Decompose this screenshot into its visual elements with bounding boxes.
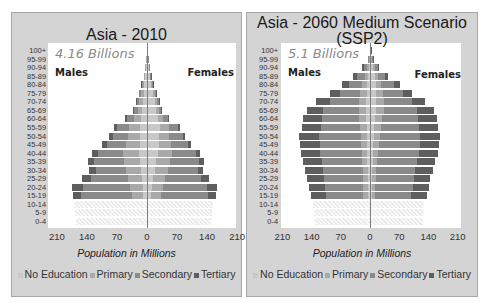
tertiary-segment bbox=[168, 115, 169, 122]
no-education-segment bbox=[147, 107, 156, 114]
primary-segment bbox=[158, 150, 172, 157]
x-axis-label: Population in Millions bbox=[12, 247, 241, 259]
male-bar bbox=[75, 209, 147, 216]
secondary-segment bbox=[340, 90, 360, 97]
tertiary-segment bbox=[208, 192, 216, 199]
female-bar bbox=[370, 98, 425, 105]
x-tick-label: 210 bbox=[274, 231, 290, 242]
secondary-segment bbox=[376, 175, 414, 182]
secondary-segment bbox=[320, 150, 362, 157]
legend: No EducationPrimarySecondaryTertiary bbox=[12, 268, 241, 280]
secondary-segment bbox=[383, 90, 402, 97]
legend-item-no-education: No Education bbox=[18, 268, 88, 280]
male-bar bbox=[82, 175, 147, 182]
x-tick-label: 70 bbox=[112, 231, 123, 242]
tertiary-segment bbox=[316, 98, 330, 105]
secondary-segment bbox=[322, 158, 363, 165]
legend: No EducationPrimarySecondaryTertiary bbox=[247, 268, 477, 280]
secondary-segment bbox=[117, 124, 129, 131]
secondary-segment bbox=[326, 192, 364, 199]
secondary-segment bbox=[168, 167, 198, 174]
female-bar bbox=[147, 141, 191, 148]
primary-segment bbox=[128, 175, 142, 182]
legend-label: No Education bbox=[25, 268, 88, 280]
tertiary-segment bbox=[307, 107, 324, 114]
no-education-segment bbox=[147, 115, 158, 122]
males-label: Males bbox=[288, 67, 321, 78]
no-education-segment bbox=[147, 158, 156, 165]
age-tick-label: 45-49 bbox=[27, 141, 46, 149]
tertiary-segment bbox=[303, 115, 321, 122]
tertiary-segment bbox=[188, 141, 191, 148]
primary-segment bbox=[159, 133, 169, 140]
primary-segment bbox=[130, 184, 143, 191]
primary-segment bbox=[134, 115, 141, 122]
age-tick-label: 55-59 bbox=[27, 124, 46, 132]
secondary-segment bbox=[319, 133, 361, 140]
age-tick-label: 0-4 bbox=[267, 218, 278, 226]
legend-label: Tertiary bbox=[201, 268, 235, 280]
tertiary-segment bbox=[419, 124, 438, 131]
secondary-segment bbox=[172, 150, 196, 157]
male-bar bbox=[92, 150, 147, 157]
tertiary-segment bbox=[82, 175, 91, 182]
male-bar bbox=[353, 73, 370, 80]
male-bar bbox=[299, 133, 370, 140]
age-axis: 100+95-9990-9485-8980-8475-7970-7465-696… bbox=[12, 43, 46, 233]
no-education-segment bbox=[147, 150, 158, 157]
primary-segment bbox=[376, 107, 384, 114]
chart-panel-2010: Asia - 2010 100+95-9990-9485-8980-8475-7… bbox=[11, 12, 242, 297]
female-bar bbox=[147, 184, 217, 191]
chart-panel-2060: Asia - 2060 Medium Scenario (SSP2) 100+9… bbox=[246, 12, 478, 297]
tertiary-segment bbox=[414, 175, 431, 182]
male-bar bbox=[133, 107, 147, 114]
male-bar bbox=[313, 201, 370, 208]
age-tick-label: 45-49 bbox=[259, 141, 278, 149]
no-education-segment bbox=[140, 158, 147, 165]
legend-label: Primary bbox=[332, 268, 368, 280]
male-bar bbox=[302, 124, 370, 131]
primary-segment bbox=[123, 150, 139, 157]
x-tick-label: 140 bbox=[79, 231, 95, 242]
legend-swatch-icon bbox=[253, 273, 258, 278]
primary-segment bbox=[151, 192, 160, 199]
male-bar bbox=[74, 201, 147, 208]
center-axis-line bbox=[370, 43, 371, 228]
male-bar bbox=[311, 192, 370, 199]
legend-label: Primary bbox=[97, 268, 133, 280]
tertiary-segment bbox=[378, 64, 379, 71]
tertiary-segment bbox=[403, 90, 412, 97]
secondary-segment bbox=[324, 175, 363, 182]
legend-swatch-icon bbox=[18, 273, 23, 278]
secondary-segment bbox=[349, 81, 362, 88]
total-population-label: 5.1 Billions bbox=[288, 46, 359, 61]
secondary-segment bbox=[357, 73, 365, 80]
x-tick-label: 70 bbox=[336, 231, 347, 242]
tertiary-segment bbox=[342, 81, 349, 88]
legend-swatch-icon bbox=[135, 273, 140, 278]
male-bar bbox=[125, 115, 147, 122]
secondary-segment bbox=[381, 81, 394, 88]
chart-subtitle: (SSP2) bbox=[247, 30, 477, 47]
chart-title: Asia - 2010 bbox=[12, 26, 241, 43]
no-education-segment bbox=[140, 124, 147, 131]
female-bar bbox=[370, 73, 388, 80]
female-bar bbox=[370, 141, 439, 148]
no-education-segment bbox=[147, 124, 160, 131]
tertiary-segment bbox=[201, 175, 209, 182]
female-bar bbox=[147, 167, 203, 174]
tertiary-segment bbox=[207, 184, 216, 191]
age-tick-label: 0-4 bbox=[35, 218, 46, 226]
primary-segment bbox=[126, 141, 140, 148]
tertiary-segment bbox=[330, 90, 340, 97]
female-bar bbox=[370, 167, 433, 174]
x-tick-label: 70 bbox=[394, 231, 405, 242]
tertiary-segment bbox=[72, 184, 83, 191]
primary-segment bbox=[156, 158, 170, 165]
secondary-segment bbox=[91, 175, 128, 182]
female-bar bbox=[147, 192, 216, 199]
secondary-segment bbox=[379, 141, 420, 148]
male-bar bbox=[314, 209, 370, 216]
tertiary-segment bbox=[178, 124, 180, 131]
primary-segment bbox=[360, 124, 367, 131]
